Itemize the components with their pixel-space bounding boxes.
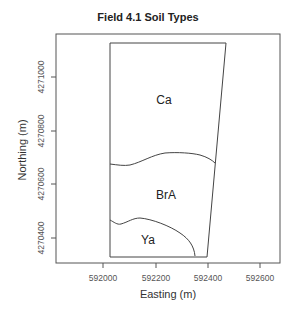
x-tick-label: 592400 <box>194 273 223 283</box>
y-tick-label: 4270600 <box>36 167 46 200</box>
x-tick-label: 592000 <box>89 273 118 283</box>
field-boundary <box>110 43 226 257</box>
region-label-ya: Ya <box>141 233 155 247</box>
x-tick-label: 592600 <box>246 273 275 283</box>
y-tick-label: 4270800 <box>36 114 46 147</box>
soil-map-plot: Ca BrA Ya 4270400 4270600 4270800 427100… <box>0 0 296 310</box>
x-axis-ticks <box>103 263 260 268</box>
y-axis-title: Northing (m) <box>16 119 28 180</box>
x-tick-label: 592200 <box>142 273 171 283</box>
region-label-bra: BrA <box>156 188 176 202</box>
plot-frame <box>56 34 280 263</box>
y-tick-label: 4270400 <box>36 221 46 254</box>
y-tick-label: 4271000 <box>36 60 46 93</box>
region-label-ca: Ca <box>156 93 172 107</box>
ca-bra-boundary <box>110 153 215 166</box>
y-axis-ticks <box>51 77 56 238</box>
x-axis-title: Easting (m) <box>140 288 196 300</box>
